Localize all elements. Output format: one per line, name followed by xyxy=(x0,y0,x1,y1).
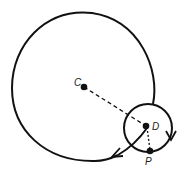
label-d: D xyxy=(152,121,159,132)
point-d xyxy=(143,123,150,130)
point-p xyxy=(147,148,154,155)
label-c: C xyxy=(74,77,82,88)
epicycle-diagram: C D P xyxy=(0,0,189,177)
radius-d-p-dashed xyxy=(147,127,150,150)
label-p: P xyxy=(145,156,152,167)
point-c xyxy=(81,84,88,91)
